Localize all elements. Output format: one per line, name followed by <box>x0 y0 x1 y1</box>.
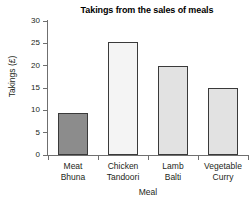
x-tick-mark <box>198 155 199 160</box>
x-category-label: VegetableCurry <box>194 161 252 182</box>
y-tick-label: 5 <box>18 129 40 137</box>
y-axis-title: Takings (£) <box>8 37 17 117</box>
bar <box>158 66 188 155</box>
y-tick-label: 0 <box>18 151 40 159</box>
bar-chart: Takings from the sales of meals 05101520… <box>0 0 252 205</box>
x-tick-mark <box>48 155 49 160</box>
x-tick-mark <box>98 155 99 160</box>
x-category-label-line: Curry <box>194 172 252 183</box>
bar <box>208 88 238 155</box>
y-tick-label: 25 <box>18 39 40 47</box>
chart-title: Takings from the sales of meals <box>46 5 248 16</box>
bar <box>108 42 138 155</box>
x-axis-title: Meal <box>48 188 248 197</box>
y-tick-label: 10 <box>18 106 40 114</box>
y-tick-label: 30 <box>18 17 40 25</box>
bar <box>58 113 88 155</box>
x-category-label-line: Vegetable <box>194 161 252 172</box>
y-tick-label: 15 <box>18 84 40 92</box>
x-tick-mark <box>148 155 149 160</box>
x-tick-mark <box>248 155 249 160</box>
y-tick-label: 20 <box>18 62 40 70</box>
plot-area <box>48 21 248 155</box>
